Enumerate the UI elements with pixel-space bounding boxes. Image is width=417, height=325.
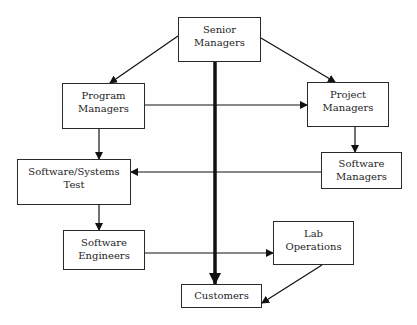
- node-label-line: Engineers: [78, 250, 130, 263]
- node-label-line: Managers: [78, 103, 129, 116]
- node-label-line: Managers: [323, 102, 374, 115]
- node-program-managers: Program Managers: [62, 83, 145, 129]
- node-customers: Customers: [181, 284, 262, 308]
- node-software-managers: Software Managers: [321, 152, 402, 189]
- node-lab-operations: Lab Operations: [273, 221, 354, 265]
- node-label-line: Test: [64, 179, 85, 192]
- node-label-line: Managers: [336, 171, 387, 184]
- node-label-line: Customers: [194, 290, 249, 303]
- node-label-line: Lab: [304, 228, 323, 241]
- node-label-line: Software: [81, 237, 127, 250]
- node-label-line: Operations: [285, 241, 341, 254]
- edge-senior-managers-to-program-managers: [110, 36, 178, 83]
- node-label-line: Program: [81, 90, 125, 103]
- edge-lab-operations-to-customers: [262, 265, 322, 303]
- node-software-engineers: Software Engineers: [63, 230, 145, 270]
- node-senior-managers: Senior Managers: [178, 17, 261, 62]
- node-label-line: Project: [330, 89, 366, 102]
- node-label-line: Managers: [194, 37, 245, 50]
- node-label-line: Senior: [203, 24, 236, 37]
- node-label-line: Software: [339, 158, 385, 171]
- edge-senior-managers-to-project-managers: [261, 38, 335, 82]
- node-project-managers: Project Managers: [307, 82, 389, 127]
- org-flow-diagram: Senior Managers Program Managers Project…: [0, 0, 417, 325]
- node-software-systems-test: Software/Systems Test: [17, 159, 131, 205]
- node-label-line: Software/Systems: [28, 166, 119, 179]
